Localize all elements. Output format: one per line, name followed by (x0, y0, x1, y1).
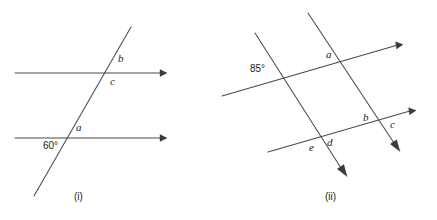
diagram-i-angle-label-60: 60° (43, 141, 58, 151)
diagram-ii-angle-label-e: e (309, 142, 314, 153)
diagram-ii-upper-parallel-arrow-icon (396, 42, 403, 49)
diagram-ii-left-transversal-arrow-icon (337, 165, 347, 177)
diagram-ii-right-transversal-arrow-icon (390, 140, 400, 152)
diagram-ii-lower-parallel-line (268, 111, 409, 152)
diagram-i-group (15, 27, 167, 196)
diagram-ii-angle-label-c: c (390, 119, 395, 130)
diagram-ii-angle-label-d: d (327, 137, 333, 148)
diagram-ii-angle-label-85: 85° (250, 64, 265, 74)
diagram-i-top-arrow-icon (160, 70, 167, 77)
geometry-figure: b c a 60° (i) 85° a b c d e (ii) (0, 0, 437, 220)
diagram-ii-angle-label-a: a (326, 49, 332, 60)
diagram-i-angle-label-c: c (110, 76, 115, 87)
diagram-i-angle-label-a: a (76, 122, 82, 133)
diagram-ii-upper-parallel-line (222, 45, 396, 96)
diagram-ii-caption: (ii) (325, 192, 336, 202)
diagram-i-angle-label-b: b (118, 53, 124, 64)
diagram-i-transversal-line (34, 27, 131, 196)
diagram-ii-right-transversal-line (308, 13, 394, 143)
diagram-ii-group (222, 13, 416, 177)
diagram-ii-angle-label-b: b (363, 112, 369, 123)
diagram-ii-lower-parallel-arrow-icon (409, 108, 416, 115)
diagram-i-caption: (i) (74, 192, 83, 202)
diagram-i-bottom-arrow-icon (160, 135, 167, 142)
geometry-canvas (0, 0, 437, 220)
